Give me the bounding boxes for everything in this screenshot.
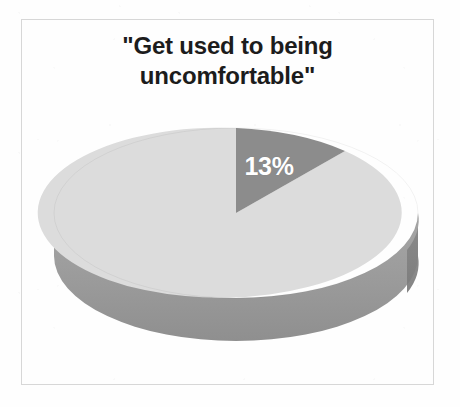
pie-chart-figure: "Get used to being uncomfortable" xyxy=(0,0,460,407)
pie-3d-graphic xyxy=(0,0,460,407)
pie-slice-remainder[interactable] xyxy=(38,128,402,298)
pie-slice-value-label: 13% xyxy=(236,152,302,181)
